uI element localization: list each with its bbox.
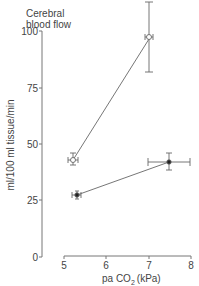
y-axis-label: ml/100 ml tissue/min [5,99,16,190]
x-axis-label: pa CO2(kPa) [102,273,161,286]
y-tick-50: 50 [27,139,39,150]
x-tick-7: 7 [146,260,152,271]
y-tick-100: 100 [21,26,38,37]
series-filled [72,153,190,199]
series-open [68,2,153,165]
chart-title-line1: Cerebral [26,8,64,19]
y-tick-0: 0 [32,252,38,263]
x-tick-6: 6 [103,260,109,271]
y-tick-75: 75 [27,83,39,94]
chart: Cerebral blood flow 100 75 50 25 0 ml/10… [0,0,199,286]
x-tick-8: 8 [188,260,194,271]
x-tick-5: 5 [61,260,67,271]
y-tick-25: 25 [27,195,39,206]
y-axis [39,31,42,257]
x-axis [64,256,191,259]
